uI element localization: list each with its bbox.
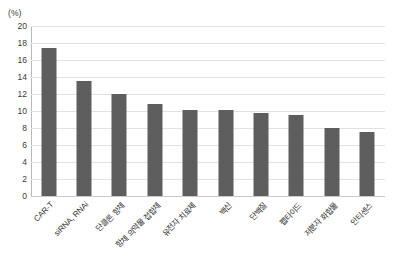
y-axis-tick-label: 20 — [3, 21, 27, 31]
x-axis-tick-label: CAR-T — [32, 200, 55, 223]
bar — [77, 81, 92, 196]
bar-slot — [279, 26, 314, 196]
y-axis-tick-label: 0 — [3, 191, 27, 201]
x-axis-label-slot: 백신 — [208, 197, 243, 263]
bar — [112, 94, 127, 196]
bar — [218, 110, 233, 196]
y-axis-tick-labels: 20181614121086420 — [0, 26, 27, 197]
x-axis-label-slot: 단백질 — [243, 197, 278, 263]
bar-slot — [208, 26, 243, 196]
bar-slot — [243, 26, 278, 196]
y-axis-tick-label: 8 — [3, 123, 27, 133]
y-axis-tick-label: 18 — [3, 38, 27, 48]
bar — [289, 115, 304, 196]
x-axis-tick-label: 백신 — [216, 200, 234, 218]
bar-slot — [31, 26, 66, 196]
bar-slot — [350, 26, 385, 196]
x-axis-tick-labels: CAR-TsiRNA, RNAi단클론 항체항체 의약물 접합체유전자 치료제백… — [31, 197, 385, 263]
y-axis-tick-label: 12 — [3, 89, 27, 99]
bar-slot — [173, 26, 208, 196]
y-axis-tick-label: 14 — [3, 72, 27, 82]
bar-chart: (%) 20181614121086420 CAR-TsiRNA, RNAi단클… — [0, 0, 399, 263]
x-axis-tick-label: 안티센스 — [348, 200, 375, 227]
y-axis-tick-label: 10 — [3, 106, 27, 116]
bar-slot — [137, 26, 172, 196]
bar-slot — [102, 26, 137, 196]
bar-series — [31, 26, 385, 196]
y-axis-tick-label: 2 — [3, 174, 27, 184]
y-axis-tick-label: 6 — [3, 140, 27, 150]
x-axis-label-slot: 저분자 화합물 — [314, 197, 349, 263]
y-axis-tick-label: 4 — [3, 157, 27, 167]
x-axis-label-slot: 안티센스 — [350, 197, 385, 263]
y-axis-tick-label: 16 — [3, 55, 27, 65]
bar — [147, 104, 162, 196]
bar — [324, 128, 339, 196]
bar — [41, 48, 56, 196]
bar — [254, 113, 269, 196]
y-axis-unit-label: (%) — [8, 8, 22, 18]
x-axis-label-slot: 유전자 치료제 — [173, 197, 208, 263]
bar-slot — [314, 26, 349, 196]
bar — [183, 110, 198, 196]
bar-slot — [66, 26, 101, 196]
x-axis-tick-label: 단백질 — [246, 200, 268, 222]
x-axis-tick-label: 펩타이드 — [277, 200, 304, 227]
bar — [360, 132, 375, 196]
